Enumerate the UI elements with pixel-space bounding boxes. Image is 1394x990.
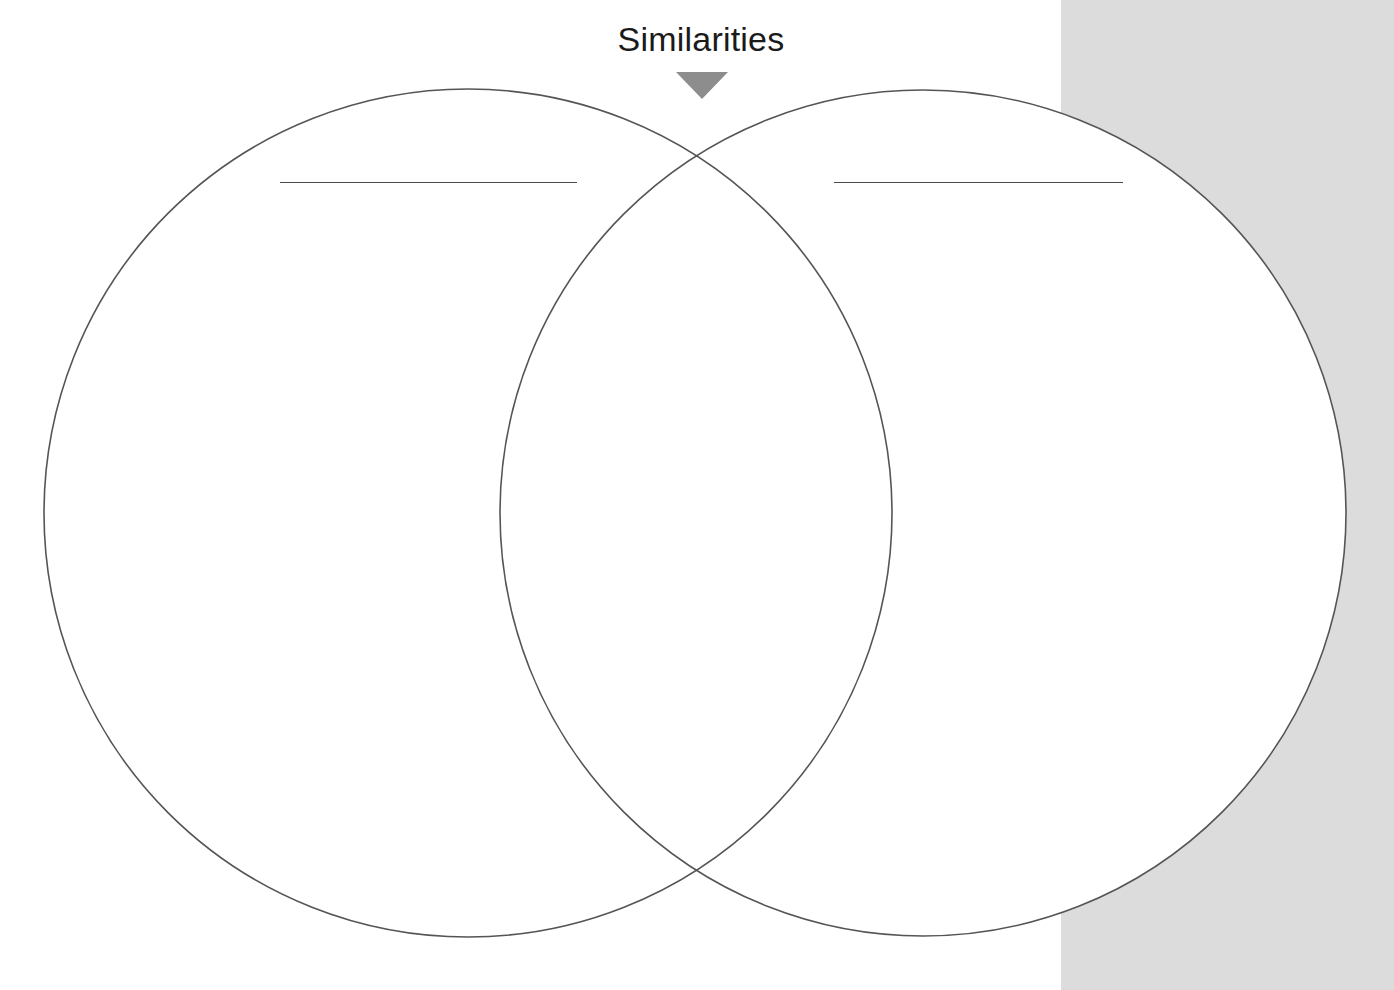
page-title-text: Similarities [618, 18, 785, 60]
right-topic-line[interactable] [834, 182, 1123, 183]
triangle-down-icon [676, 72, 728, 99]
left-topic-line[interactable] [280, 182, 577, 183]
worksheet-page: Similarities [0, 0, 1394, 990]
venn-diagram [0, 0, 1394, 990]
page-title: Similarities [0, 18, 1394, 60]
venn-right-circle-fill [500, 90, 1346, 936]
